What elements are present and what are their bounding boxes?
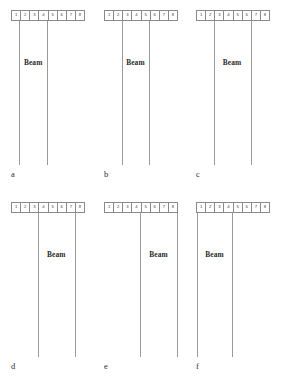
- beam-edge-line-right: [251, 21, 252, 165]
- cell-3[interactable]: 3: [123, 11, 132, 20]
- panel-letter-f: f: [196, 362, 199, 371]
- cell-3[interactable]: 3: [30, 203, 39, 212]
- cell-7[interactable]: 7: [67, 11, 76, 20]
- beam-edge-line-right: [149, 21, 150, 165]
- beam-label: Beam: [149, 250, 167, 259]
- cell-1[interactable]: 1: [105, 203, 114, 212]
- cell-strip: 12345678: [11, 10, 85, 21]
- cell-2[interactable]: 2: [21, 11, 30, 20]
- cell-1[interactable]: 1: [105, 11, 114, 20]
- beam-edge-line-left: [214, 21, 215, 165]
- cell-5[interactable]: 5: [142, 11, 151, 20]
- beam-position-figure: 12345678Beama12345678Beamb12345678Beamc1…: [0, 0, 283, 377]
- cell-4[interactable]: 4: [224, 203, 233, 212]
- cell-7[interactable]: 7: [252, 11, 261, 20]
- cell-5[interactable]: 5: [142, 203, 151, 212]
- beam-label: Beam: [47, 250, 65, 259]
- cell-strip: 12345678: [11, 202, 85, 213]
- beam-lines: [196, 213, 270, 357]
- beam-edge-line-right: [177, 213, 178, 357]
- cell-3[interactable]: 3: [30, 11, 39, 20]
- cell-1[interactable]: 1: [12, 11, 21, 20]
- cell-8[interactable]: 8: [76, 11, 84, 20]
- beam-edge-line-left: [19, 21, 20, 165]
- cell-3[interactable]: 3: [123, 203, 132, 212]
- cell-2[interactable]: 2: [206, 203, 215, 212]
- cell-5[interactable]: 5: [234, 11, 243, 20]
- beam-label: Beam: [126, 58, 144, 67]
- cell-2[interactable]: 2: [206, 11, 215, 20]
- cell-strip: 12345678: [196, 10, 270, 21]
- beam-lines: [104, 213, 178, 357]
- cell-6[interactable]: 6: [243, 11, 252, 20]
- cell-strip: 12345678: [196, 202, 270, 213]
- cell-2[interactable]: 2: [114, 203, 123, 212]
- cell-6[interactable]: 6: [151, 203, 160, 212]
- panel-letter-a: a: [11, 170, 15, 179]
- beam-label: Beam: [205, 250, 223, 259]
- panel-letter-e: e: [104, 362, 108, 371]
- cell-6[interactable]: 6: [243, 203, 252, 212]
- cell-8[interactable]: 8: [76, 203, 84, 212]
- cell-2[interactable]: 2: [21, 203, 30, 212]
- cell-strip: 12345678: [104, 202, 178, 213]
- cell-7[interactable]: 7: [252, 203, 261, 212]
- beam-edge-line-left: [197, 213, 198, 357]
- cell-8[interactable]: 8: [169, 11, 177, 20]
- cell-4[interactable]: 4: [132, 203, 141, 212]
- cell-6[interactable]: 6: [151, 11, 160, 20]
- beam-lines: [196, 21, 270, 165]
- cell-6[interactable]: 6: [58, 203, 67, 212]
- cell-1[interactable]: 1: [197, 11, 206, 20]
- beam-edge-line-left: [140, 213, 141, 357]
- beam-lines: [11, 21, 85, 165]
- beam-edge-line-right: [75, 213, 76, 357]
- beam-edge-line-left: [122, 21, 123, 165]
- cell-8[interactable]: 8: [169, 203, 177, 212]
- cell-6[interactable]: 6: [58, 11, 67, 20]
- beam-label: Beam: [24, 58, 42, 67]
- panel-letter-c: c: [196, 170, 200, 179]
- beam-edge-line-right: [232, 213, 233, 357]
- beam-lines: [11, 213, 85, 357]
- cell-4[interactable]: 4: [39, 203, 48, 212]
- cell-4[interactable]: 4: [132, 11, 141, 20]
- panel-letter-b: b: [104, 170, 108, 179]
- cell-1[interactable]: 1: [197, 203, 206, 212]
- beam-edge-line-right: [47, 21, 48, 165]
- cell-8[interactable]: 8: [261, 203, 269, 212]
- cell-7[interactable]: 7: [67, 203, 76, 212]
- cell-5[interactable]: 5: [234, 203, 243, 212]
- cell-7[interactable]: 7: [160, 203, 169, 212]
- beam-lines: [104, 21, 178, 165]
- cell-1[interactable]: 1: [12, 203, 21, 212]
- cell-5[interactable]: 5: [49, 11, 58, 20]
- cell-5[interactable]: 5: [49, 203, 58, 212]
- cell-strip: 12345678: [104, 10, 178, 21]
- cell-3[interactable]: 3: [215, 203, 224, 212]
- cell-2[interactable]: 2: [114, 11, 123, 20]
- cell-4[interactable]: 4: [224, 11, 233, 20]
- cell-8[interactable]: 8: [261, 11, 269, 20]
- cell-4[interactable]: 4: [39, 11, 48, 20]
- cell-3[interactable]: 3: [215, 11, 224, 20]
- beam-edge-line-left: [38, 213, 39, 357]
- beam-label: Beam: [223, 58, 241, 67]
- panel-letter-d: d: [11, 362, 15, 371]
- cell-7[interactable]: 7: [160, 11, 169, 20]
